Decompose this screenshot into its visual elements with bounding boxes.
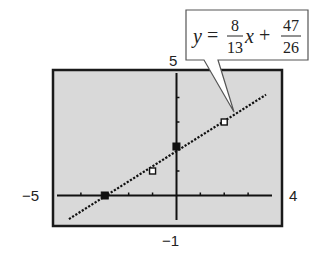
eq-var: x	[244, 25, 254, 47]
filled-point	[101, 192, 108, 199]
eq-slope-den: 13	[227, 39, 243, 56]
x-max-label: 4	[289, 187, 297, 204]
eq-int-num: 47	[283, 17, 299, 34]
y-min-label: −1	[162, 232, 179, 249]
open-point	[150, 168, 156, 174]
eq-int-den: 26	[283, 39, 299, 56]
y-max-label: 5	[169, 52, 177, 69]
open-point	[221, 119, 227, 125]
eq-equals: =	[207, 24, 218, 46]
eq-slope-num: 8	[231, 17, 239, 34]
eq-lhs: y	[191, 25, 202, 48]
filled-point	[173, 143, 180, 150]
x-min-label: −5	[22, 187, 39, 204]
eq-plus: +	[259, 24, 270, 46]
graph-screen	[53, 70, 282, 226]
calculator-graph: −5 4 5 −1 y = 8 13 x + 47 26	[0, 0, 323, 260]
